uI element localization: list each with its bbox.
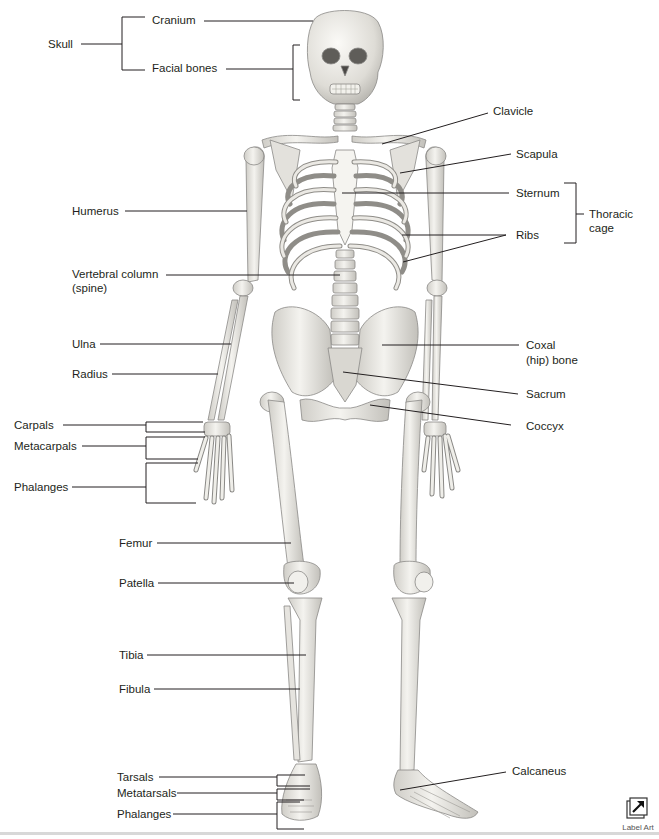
label-phalanges-hand: Phalanges bbox=[14, 480, 68, 494]
femur-right-shape bbox=[400, 400, 422, 568]
label-thoracic-cage: Thoracic bbox=[589, 207, 633, 221]
skeleton-bones bbox=[196, 11, 478, 821]
label-calcaneus: Calcaneus bbox=[512, 764, 566, 778]
label-vertebral-column: Vertebral column bbox=[72, 267, 158, 281]
footer-divider bbox=[0, 832, 659, 835]
label-coxal: Coxal bbox=[526, 338, 555, 352]
sacrum-shape bbox=[328, 348, 362, 402]
label-skull: Skull bbox=[48, 37, 73, 51]
label-radius: Radius bbox=[72, 367, 108, 381]
external-arrow-icon bbox=[620, 796, 656, 824]
label-cranium: Cranium bbox=[152, 13, 195, 27]
label-vertebral-column-sub: (spine) bbox=[72, 281, 107, 295]
lumbar-spine bbox=[331, 250, 359, 345]
label-coxal-sub: (hip) bone bbox=[526, 353, 578, 367]
label-metatarsals: Metatarsals bbox=[117, 786, 176, 800]
label-patella: Patella bbox=[119, 576, 154, 590]
label-femur: Femur bbox=[119, 536, 152, 550]
label-thoracic-cage-sub: cage bbox=[589, 221, 614, 235]
label-metacarpals: Metacarpals bbox=[14, 439, 77, 453]
label-ribs: Ribs bbox=[516, 228, 539, 242]
humerus-left-shape bbox=[246, 147, 264, 282]
label-clavicle: Clavicle bbox=[493, 104, 533, 118]
fibula-left-shape bbox=[284, 606, 300, 760]
pelvis-left-shape bbox=[272, 307, 334, 396]
label-phalanges-foot: Phalanges bbox=[117, 807, 171, 821]
patella-shape bbox=[288, 571, 308, 593]
cervical-spine bbox=[333, 104, 357, 131]
label-scapula: Scapula bbox=[516, 147, 558, 161]
foot-right-shape bbox=[394, 770, 478, 818]
hand-left-shape bbox=[196, 422, 232, 502]
label-art-caption: Label Art bbox=[620, 823, 656, 832]
label-coccyx: Coccyx bbox=[526, 419, 564, 433]
label-fibula: Fibula bbox=[119, 682, 150, 696]
label-sternum: Sternum bbox=[516, 186, 559, 200]
label-art-button[interactable]: Label Art bbox=[620, 796, 656, 834]
label-ulna: Ulna bbox=[72, 337, 96, 351]
hand-right-shape bbox=[424, 422, 458, 496]
skull-shape bbox=[307, 11, 383, 105]
label-facial-bones: Facial bones bbox=[152, 61, 217, 75]
tibia-right-shape bbox=[392, 598, 426, 772]
label-sacrum: Sacrum bbox=[526, 387, 566, 401]
label-carpals: Carpals bbox=[14, 418, 54, 432]
label-humerus: Humerus bbox=[72, 204, 119, 218]
pelvis-right-shape bbox=[356, 307, 418, 396]
label-tibia: Tibia bbox=[119, 648, 144, 662]
label-tarsals: Tarsals bbox=[117, 770, 153, 784]
